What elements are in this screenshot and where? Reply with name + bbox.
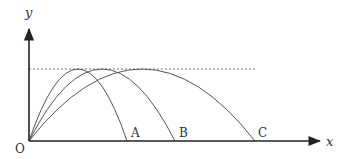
trajectory-c [29, 69, 255, 141]
origin-label: O [15, 142, 25, 156]
landing-label-c: C [258, 126, 267, 140]
y-axis-label: y [24, 5, 33, 20]
projectile-diagram: y x O A B C [0, 0, 349, 159]
trajectory-b [29, 69, 175, 141]
landing-label-b: B [179, 126, 188, 140]
trajectory-a [29, 69, 127, 141]
landing-label-a: A [130, 126, 140, 140]
x-axis-label: x [326, 134, 334, 149]
